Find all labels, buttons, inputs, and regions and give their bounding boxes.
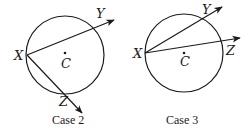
case-3-label-y: Y (202, 2, 212, 17)
case-3-label-x: X (132, 46, 143, 61)
case-2-caption: Case 2 (52, 113, 84, 127)
case-3-caption: Case 3 (166, 113, 198, 127)
case-3-diagram: X Y Z C Case 3 (132, 2, 240, 127)
case-3-label-z: Z (225, 43, 236, 58)
case-2-circle (26, 16, 104, 94)
case-2-label-x: X (13, 48, 24, 63)
case-2-center-dot (64, 52, 67, 55)
case-2-label-c: C (61, 56, 71, 71)
case-3-label-c: C (180, 54, 190, 69)
case-2-diagram: X Y Z C Case 2 (13, 6, 114, 127)
case-2-ray-xz (27, 55, 82, 113)
case-2-label-y: Y (96, 6, 106, 21)
diagram-canvas: X Y Z C Case 2 X Y Z C Case 3 (0, 0, 250, 132)
case-2-label-z: Z (58, 94, 69, 109)
